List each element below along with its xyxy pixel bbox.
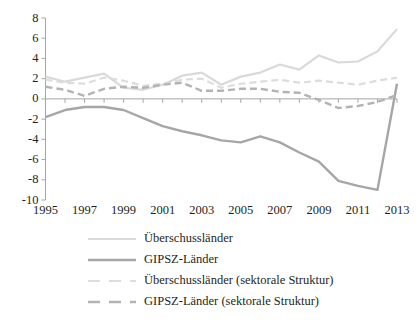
chart-legend: ÜberschussländerGIPSZ-LänderÜberschusslä…	[0, 228, 420, 312]
legend-item: GIPSZ-Länder (sektorale Struktur)	[0, 291, 420, 312]
chart-figure: 86420-2-4-6-8-10 19951997199920012003200…	[0, 0, 420, 327]
legend-label: Überschussländer (sektorale Struktur)	[144, 274, 334, 287]
legend-line-swatch	[88, 233, 136, 245]
series-line-3	[46, 83, 398, 108]
legend-label: GIPSZ-Länder	[144, 253, 218, 266]
y-tick-label: 6	[32, 32, 38, 45]
legend-item: Überschussländer	[0, 228, 420, 249]
x-tick-label: 2009	[297, 204, 341, 217]
y-tick-label: -8	[28, 173, 38, 186]
x-tick-label: 2001	[141, 204, 185, 217]
legend-label: GIPSZ-Länder (sektorale Struktur)	[144, 295, 319, 308]
x-tick-label: 2011	[336, 204, 380, 217]
x-tick-label: 2005	[219, 204, 263, 217]
y-tick-label: -4	[28, 133, 38, 146]
x-tick-label: 1995	[24, 204, 68, 217]
legend-line-swatch	[88, 296, 136, 308]
series-line-0	[46, 29, 398, 90]
legend-label: Überschussländer	[144, 232, 233, 245]
y-tick-label: 4	[32, 52, 38, 65]
y-tick-label: 2	[32, 72, 38, 85]
y-tick-label: 0	[32, 92, 38, 105]
x-tick-label: 1999	[102, 204, 146, 217]
x-tick-label: 2003	[180, 204, 224, 217]
plot-area: 86420-2-4-6-8-10 19951997199920012003200…	[0, 0, 420, 222]
y-tick-label: -2	[28, 113, 38, 126]
legend-line-swatch	[88, 275, 136, 287]
series-line-2	[46, 78, 398, 88]
legend-item: GIPSZ-Länder	[0, 249, 420, 270]
chart-canvas	[0, 0, 420, 222]
x-tick-label: 2007	[258, 204, 302, 217]
y-tick-label: 8	[32, 12, 38, 25]
x-tick-label: 1997	[63, 204, 107, 217]
footer-strip	[0, 318, 420, 327]
y-tick-label: -6	[28, 153, 38, 166]
legend-item: Überschussländer (sektorale Struktur)	[0, 270, 420, 291]
legend-line-swatch	[88, 254, 136, 266]
x-tick-label: 2013	[375, 204, 419, 217]
